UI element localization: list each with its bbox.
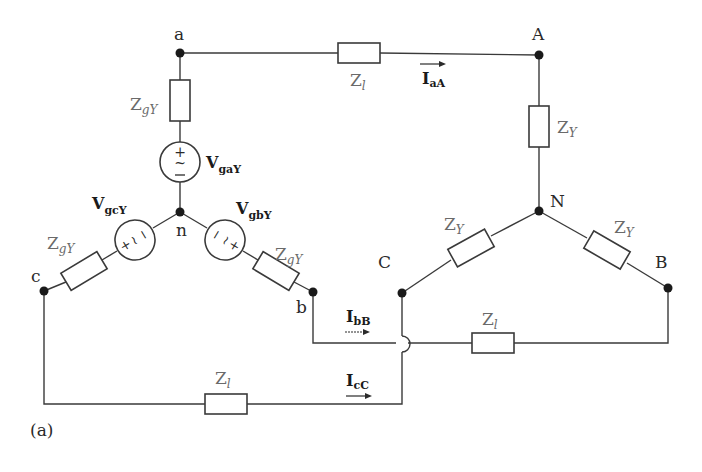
wire-vgc-to-zgc	[102, 251, 117, 260]
label-vgc: VgcY	[91, 194, 127, 217]
wire-zyc-to-C	[402, 260, 451, 293]
label-node-a: a	[174, 24, 184, 44]
current-cC: IcC	[346, 371, 372, 399]
figure-label: (a)	[30, 420, 53, 440]
voltage-source-c: − ~ +	[108, 213, 163, 268]
label-vga: VgaY	[205, 153, 241, 176]
voltage-source-b: − ~ +	[198, 213, 253, 268]
label-zga: ZgY	[130, 94, 158, 117]
resistor-zyc	[448, 229, 494, 267]
node-C	[398, 289, 407, 298]
wire-N-to-zyb	[539, 211, 587, 238]
node-c	[40, 287, 49, 296]
wire-c-line	[44, 291, 205, 404]
node-B	[664, 284, 673, 293]
node-n	[176, 208, 185, 217]
resistor-zlb	[472, 333, 514, 353]
svg-text:IaA: IaA	[422, 69, 446, 90]
label-zlc: Zl	[215, 368, 231, 391]
node-b	[309, 288, 318, 297]
label-node-B: B	[655, 252, 668, 272]
wire-zlc-to-crossover	[247, 352, 402, 404]
tilde-icon: ~	[174, 155, 186, 171]
resistor-zla	[338, 43, 380, 63]
svg-text:IcC: IcC	[346, 371, 369, 392]
resistor-zya	[529, 106, 549, 147]
wire-vgb-to-zgb	[243, 251, 258, 260]
label-vgb: VgbY	[235, 199, 272, 222]
wire-zla-to-A	[380, 53, 539, 55]
three-phase-wye-wye-circuit: + ~ − ~ + − ~ + a n b c A N B C ZgY ZgY …	[0, 0, 702, 472]
label-node-b: b	[296, 297, 307, 317]
label-node-N: N	[550, 191, 565, 211]
label-zyb: ZY	[614, 217, 635, 240]
node-a	[176, 49, 185, 58]
svg-text:IbB: IbB	[346, 307, 370, 328]
wire-zlb-to-B	[514, 288, 668, 343]
current-bB: IbB	[345, 307, 370, 335]
resistor-zlc	[205, 394, 247, 414]
label-zgc: ZgY	[47, 233, 75, 256]
label-zla: Zl	[350, 70, 366, 93]
resistor-zgc	[61, 252, 107, 291]
voltage-source-a: + ~	[160, 142, 200, 182]
label-node-C: C	[378, 252, 391, 272]
label-zlb: Zl	[482, 309, 498, 332]
label-node-c: c	[31, 266, 41, 286]
node-A	[535, 51, 544, 60]
node-N	[535, 207, 544, 216]
label-zgb: ZgY	[275, 244, 303, 267]
resistor-zga	[170, 80, 190, 121]
label-zya: ZY	[557, 117, 578, 140]
wire-crossover-hop	[402, 336, 410, 352]
label-zyc: ZY	[444, 214, 465, 237]
label-node-n: n	[176, 220, 187, 240]
current-aA: IaA	[420, 61, 446, 90]
label-node-A: A	[531, 24, 545, 44]
wire-N-to-zyc	[491, 211, 539, 236]
